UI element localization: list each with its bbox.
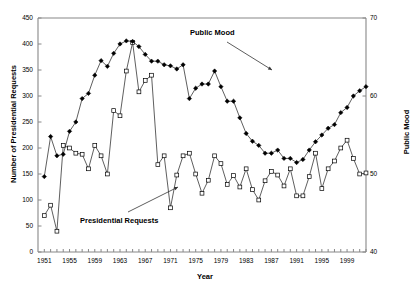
y-tick-label-right: 50 [370,170,390,177]
data-point-marker [257,198,261,202]
data-point-marker [351,157,355,161]
x-axis-title: Year [160,272,250,281]
data-point-marker [358,172,362,176]
data-point-marker [294,160,298,164]
data-point-marker [67,129,71,133]
x-tick-label: 1991 [284,257,310,264]
y-tick-label-left: 350 [13,66,33,73]
data-point-marker [326,167,330,171]
data-point-marker [137,90,141,94]
data-point-marker [320,187,324,191]
data-series-group [42,39,368,233]
y-axis-right-title: Public Mood [402,16,411,248]
data-point-marker [231,99,235,103]
x-tick-label: 1975 [183,257,209,264]
data-point-marker [225,183,229,187]
data-point-marker [74,151,78,155]
data-point-marker [150,73,154,77]
x-tick-label: 1995 [309,257,335,264]
annotation-public-mood: Public Mood [190,28,235,37]
x-tick-label: 1967 [132,257,158,264]
y-tick-label-left: 50 [13,222,33,229]
x-tick-label: 1971 [157,257,183,264]
data-point-marker [168,64,172,68]
data-point-marker [288,167,292,171]
data-point-marker [93,144,97,148]
data-point-marker [213,154,217,158]
data-point-marker [206,82,210,86]
data-point-marker [332,122,336,126]
data-point-marker [74,120,78,124]
data-point-marker [219,84,223,88]
x-tick-label: 1959 [82,257,108,264]
data-point-marker [244,167,248,171]
data-point-marker [269,170,273,174]
data-point-marker [181,63,185,67]
data-point-marker [162,63,166,67]
data-point-marker [169,206,173,210]
data-point-marker [112,109,116,113]
data-point-marker [339,146,343,150]
data-point-marker [118,114,122,118]
data-point-marker [42,174,46,178]
x-tick-label: 1951 [31,257,57,264]
data-point-marker [206,178,210,182]
data-point-marker [187,151,191,155]
x-tick-label: 1979 [208,257,234,264]
data-point-marker [333,159,337,163]
y-tick-label-left: 250 [13,118,33,125]
data-point-marker [143,79,147,83]
data-point-marker [55,229,59,233]
series-presidential-requests [42,41,367,234]
data-point-marker [288,156,292,160]
data-point-marker [219,162,223,166]
data-point-marker [124,69,128,73]
data-point-marker [200,82,204,86]
data-point-marker [48,134,52,138]
data-point-marker [175,173,179,177]
data-point-marker [124,39,128,43]
data-point-marker [87,167,91,171]
series-line [44,42,366,231]
data-point-marker [225,99,229,103]
y-tick-label-left: 150 [13,170,33,177]
y-tick-label-left: 100 [13,196,33,203]
data-point-marker [61,144,65,148]
data-point-marker [269,151,273,155]
data-point-marker [156,59,160,63]
data-point-marker [238,116,242,120]
data-point-marker [93,73,97,77]
data-point-marker [42,214,46,218]
y-tick-label-right: 40 [370,248,390,255]
y-tick-label-left: 450 [13,14,33,21]
x-tick-label: 1983 [233,257,259,264]
annotation-arrow-public-mood [227,42,272,70]
data-point-marker [175,67,179,71]
data-point-marker [314,151,318,155]
data-point-marker [193,86,197,90]
y-tick-label-left: 400 [13,40,33,47]
data-point-marker [251,188,255,192]
y-tick-label-left: 300 [13,92,33,99]
data-point-marker [301,194,305,198]
data-point-marker [263,179,267,183]
y-tick-label-right: 60 [370,92,390,99]
series-line [44,41,366,177]
data-point-marker [80,152,84,156]
data-point-marker [307,175,311,179]
data-point-marker [111,51,115,55]
data-point-marker [301,157,305,161]
data-point-marker [49,203,53,207]
y-tick-label-left: 200 [13,144,33,151]
data-point-marker [212,69,216,73]
x-tick-label: 1963 [107,257,133,264]
data-point-marker [156,163,160,167]
series-public-mood [42,39,368,179]
data-point-marker [118,42,122,46]
x-tick-label: 1987 [258,257,284,264]
data-point-marker [99,154,103,158]
data-point-marker [200,191,204,195]
data-point-marker [105,172,109,176]
data-point-marker [276,173,280,177]
